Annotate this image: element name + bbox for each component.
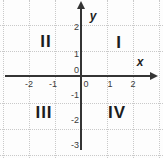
- x-tick-pos1: 1: [107, 80, 112, 89]
- y-tick-neg1: -1: [71, 91, 79, 100]
- quadrant-3-label: III: [35, 104, 52, 121]
- y-tick-pos2: 2: [74, 23, 79, 32]
- quadrant-2-label: II: [40, 33, 51, 50]
- gridline-vertical-x-pos3: [159, 0, 160, 158]
- x-axis-label: x: [137, 56, 144, 68]
- gridline-vertical-x-neg3: [3, 0, 4, 158]
- x-tick-neg2: -2: [25, 80, 33, 89]
- y-tick-neg3: -3: [71, 141, 79, 150]
- coordinate-plane: y x -2 -1 0 1 2 2 1 0 -1 -2 -3 I II III …: [0, 0, 163, 158]
- y-axis-label: y: [90, 10, 97, 22]
- x-axis: [5, 75, 152, 77]
- y-tick-pos1: 1: [74, 50, 79, 59]
- x-axis-arrowhead: [150, 72, 158, 80]
- y-axis: [80, 8, 82, 150]
- x-tick-neg1: -1: [49, 80, 57, 89]
- y-axis-arrowhead: [77, 1, 85, 9]
- quadrant-4-label: IV: [108, 104, 126, 121]
- x-tick-zero: 0: [83, 80, 88, 89]
- y-tick-neg2: -2: [71, 116, 79, 125]
- x-tick-pos2: 2: [130, 80, 135, 89]
- gridline-horizontal-y-neg3: [0, 155, 163, 156]
- quadrant-1-label: I: [116, 34, 122, 51]
- y-tick-zero: 0: [74, 66, 79, 75]
